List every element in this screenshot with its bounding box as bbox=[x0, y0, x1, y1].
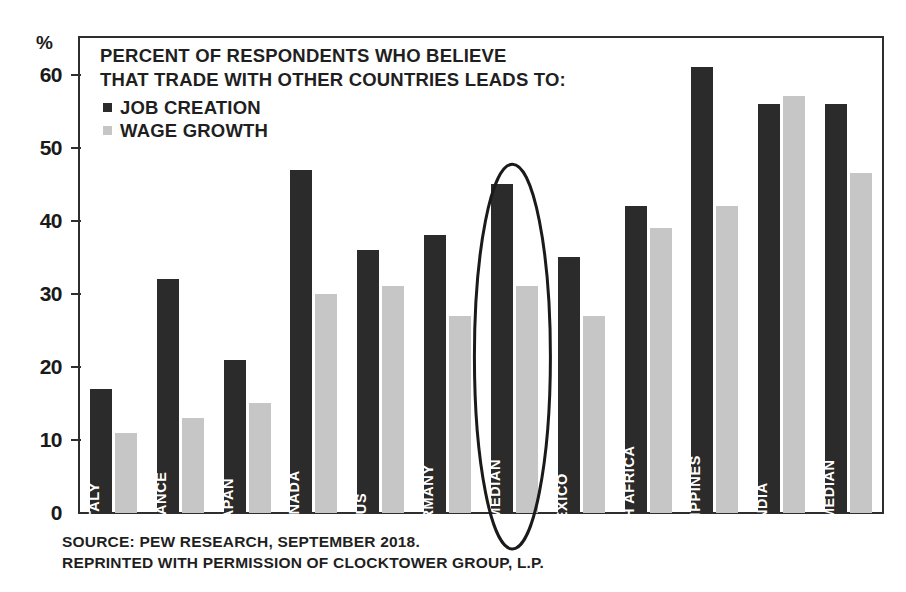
bar-wage-growth bbox=[516, 286, 538, 513]
source-line-1: SOURCE: PEW RESEARCH, SEPTEMBER 2018. bbox=[62, 531, 544, 552]
bar-job-creation: SOUTH AFRICA bbox=[625, 206, 647, 513]
bar-wage-growth bbox=[382, 286, 404, 513]
bar-job-creation: FRANCE bbox=[157, 279, 179, 513]
bar-wage-growth bbox=[182, 418, 204, 513]
bar-job-creation: DM MEDIAN bbox=[491, 184, 513, 513]
bar-wage-growth bbox=[850, 173, 872, 513]
bar-job-creation: GERMANY bbox=[424, 235, 446, 513]
bar-job-creation: INDIA bbox=[758, 104, 780, 513]
bar-category-label: SOUTH AFRICA bbox=[621, 445, 636, 561]
chart-title-line-1: PERCENT OF RESPONDENTS WHO BELIEVE bbox=[100, 44, 570, 68]
source-note: SOURCE: PEW RESEARCH, SEPTEMBER 2018. RE… bbox=[62, 531, 544, 573]
bar-category-label: ITALY bbox=[86, 482, 101, 524]
chart-container: % 0102030405060 ITALYFRANCEJAPANCANADAUS… bbox=[0, 0, 906, 592]
chart-legend: JOB CREATION WAGE GROWTH bbox=[103, 96, 268, 142]
bar-category-label: US bbox=[354, 492, 369, 513]
bar-job-creation: EM MEDIAN bbox=[825, 104, 847, 513]
legend-label-wage-growth: WAGE GROWTH bbox=[120, 120, 268, 142]
bar-wage-growth bbox=[315, 294, 337, 513]
bar-wage-growth bbox=[716, 206, 738, 513]
legend-item-wage-growth: WAGE GROWTH bbox=[103, 119, 268, 142]
bar-category-label: PHILIPPINES bbox=[688, 455, 703, 552]
bar-wage-growth bbox=[249, 403, 271, 513]
bar-job-creation: JAPAN bbox=[224, 360, 246, 513]
bar-job-creation: CANADA bbox=[290, 170, 312, 513]
bar-category-label: INDIA bbox=[755, 482, 770, 524]
legend-swatch-dark bbox=[103, 103, 112, 112]
bar-job-creation: ITALY bbox=[90, 389, 112, 513]
bar-category-label: FRANCE bbox=[153, 471, 168, 535]
bar-category-label: EM MEDIAN bbox=[822, 459, 837, 547]
bar-wage-growth bbox=[115, 433, 137, 513]
source-line-2: REPRINTED WITH PERMISSION OF CLOCKTOWER … bbox=[62, 552, 544, 573]
bar-category-label: CANADA bbox=[287, 470, 302, 536]
legend-label-job-creation: JOB CREATION bbox=[120, 97, 261, 119]
bar-wage-growth bbox=[449, 316, 471, 513]
legend-item-job-creation: JOB CREATION bbox=[103, 96, 268, 119]
bar-category-label: MEXICO bbox=[554, 473, 569, 534]
bar-category-label: JAPAN bbox=[220, 477, 235, 528]
bar-wage-growth bbox=[583, 316, 605, 513]
chart-title-line-2: THAT TRADE WITH OTHER COUNTRIES LEADS TO… bbox=[100, 68, 570, 92]
bar-wage-growth bbox=[783, 96, 805, 513]
bar-wage-growth bbox=[650, 228, 672, 513]
legend-swatch-light bbox=[103, 126, 112, 135]
bar-job-creation: MEXICO bbox=[558, 257, 580, 513]
chart-title: PERCENT OF RESPONDENTS WHO BELIEVE THAT … bbox=[100, 44, 570, 92]
bar-job-creation: US bbox=[357, 250, 379, 513]
bar-job-creation: PHILIPPINES bbox=[691, 67, 713, 513]
